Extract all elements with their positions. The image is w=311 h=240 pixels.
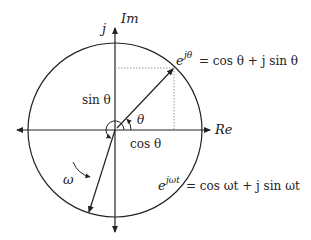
euler-omega-exponent: jωt <box>164 175 180 185</box>
euler-theta-exponent: jθ <box>182 50 193 60</box>
euler-equation-omega: e jωt = cos ωt + j sin ωt <box>158 175 300 193</box>
euler-theta-rhs: = cos θ + j sin θ <box>199 54 298 68</box>
phasor-theta <box>117 69 173 128</box>
phasor-omega-t <box>89 130 115 212</box>
euler-omega-rhs: = cos ωt + j sin ωt <box>186 179 300 193</box>
euler-theta-base: e <box>176 53 184 68</box>
euler-omega-base: e <box>158 178 166 193</box>
im-axis-label: Im <box>120 11 138 26</box>
cos-theta-label: cos θ <box>130 137 161 151</box>
j-axis-label: j <box>99 21 106 36</box>
theta-angle-arc <box>127 119 131 130</box>
re-axis-label: Re <box>214 122 233 137</box>
sin-theta-label: sin θ <box>82 93 111 107</box>
unit-circle-diagram: Im j Re sin θ cos θ θ ω e jθ = cos θ + j… <box>0 0 311 240</box>
euler-equation-theta: e jθ = cos θ + j sin θ <box>176 50 298 68</box>
theta-label: θ <box>137 113 145 127</box>
omega-label: ω <box>63 172 74 187</box>
rotation-arrow-icon <box>73 162 90 177</box>
